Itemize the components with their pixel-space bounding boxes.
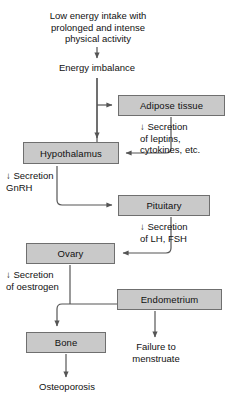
edge-label-oestrogen: ↓ Secretion of oestrogen: [6, 269, 96, 292]
node-low-energy-intake: Low energy intake with prolonged and int…: [18, 10, 178, 45]
node-energy-imbalance: Energy imbalance: [32, 62, 162, 74]
edge-label-lh-fsh: ↓ Secretion of LH, FSH: [140, 221, 230, 244]
node-hypothalamus: Hypothalamus: [23, 142, 119, 164]
node-endometrium: Endometrium: [117, 289, 222, 310]
edge-ovary-to-bone: [57, 304, 70, 326]
node-pituitary: Pituitary: [118, 195, 210, 216]
node-failure-to-menstruate: Failure to menstruate: [115, 341, 197, 364]
node-osteoporosis: Osteoporosis: [22, 381, 112, 393]
edge-label-leptins-cytokines: ↓ Secretion of leptins, cytokines, etc.: [140, 121, 235, 156]
node-bone: Bone: [26, 332, 106, 353]
flowchart-diagram: Low energy intake with prolonged and int…: [0, 0, 238, 403]
edge-label-gnrh: ↓ Secretion GnRH: [6, 170, 91, 193]
node-adipose-tissue: Adipose tissue: [118, 95, 225, 116]
node-ovary: Ovary: [26, 243, 115, 264]
